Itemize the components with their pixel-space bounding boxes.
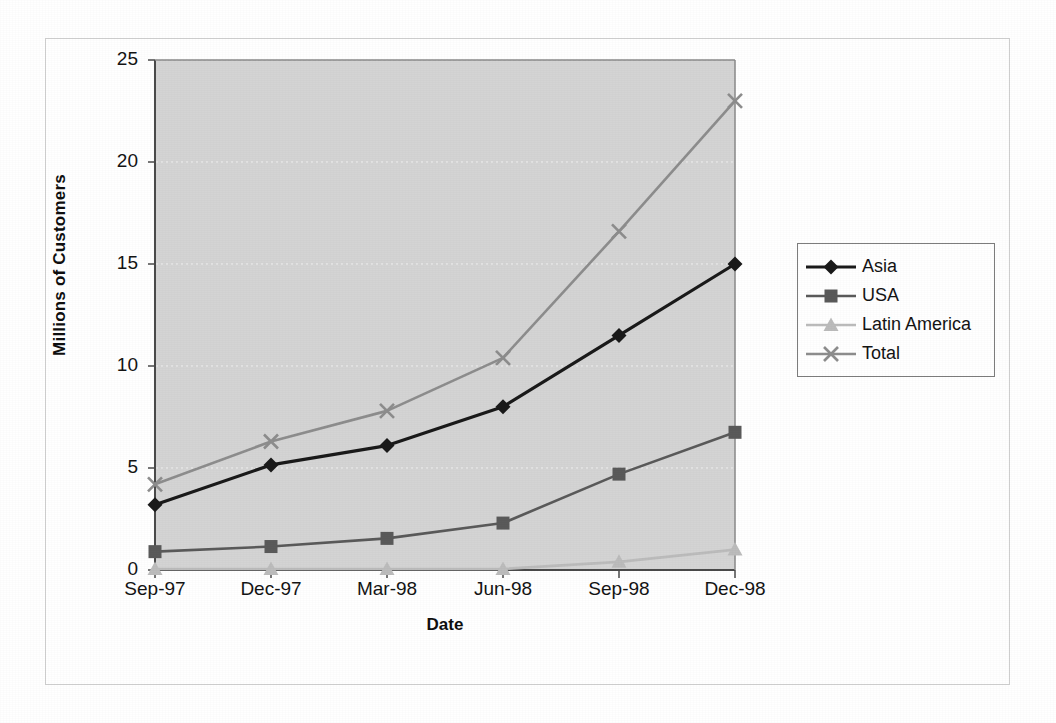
y-tick-label: 20	[98, 150, 138, 172]
y-tick-label: 25	[98, 48, 138, 70]
y-axis-title: Millions of Customers	[50, 155, 70, 375]
x-tick-label: Dec-97	[211, 578, 331, 600]
x-tick-label: Sep-98	[559, 578, 679, 600]
square-marker-icon	[497, 517, 510, 530]
x-axis-ticks	[155, 570, 735, 578]
chart-legend[interactable]: Asia USA Latin America Total	[797, 243, 995, 377]
x-axis-title: Date	[335, 615, 555, 635]
legend-label: Asia	[858, 256, 897, 277]
legend-item-asia[interactable]: Asia	[804, 252, 988, 281]
diamond-marker-icon	[824, 259, 839, 274]
y-tick-label: 0	[98, 558, 138, 580]
x-tick-label: Sep-97	[95, 578, 215, 600]
square-marker-icon	[804, 286, 858, 306]
legend-item-usa[interactable]: USA	[804, 281, 988, 310]
y-tick-label: 15	[98, 252, 138, 274]
cross-marker-icon	[804, 344, 858, 364]
square-marker-icon	[265, 540, 278, 553]
square-marker-icon	[825, 289, 838, 302]
line-chart: 0510152025 Sep-97Dec-97Mar-98Jun-98Sep-9…	[0, 0, 1056, 723]
square-marker-icon	[729, 426, 742, 439]
y-axis-ticks	[148, 60, 155, 570]
y-tick-label: 5	[98, 456, 138, 478]
triangle-marker-icon	[804, 315, 858, 335]
square-marker-icon	[613, 468, 626, 481]
x-tick-label: Mar-98	[327, 578, 447, 600]
legend-item-latin-america[interactable]: Latin America	[804, 310, 988, 339]
legend-label: USA	[858, 285, 899, 306]
y-tick-label: 10	[98, 354, 138, 376]
x-tick-label: Dec-98	[675, 578, 795, 600]
square-marker-icon	[381, 532, 394, 545]
plot-background	[155, 60, 735, 570]
diamond-marker-icon	[804, 257, 858, 277]
legend-item-total[interactable]: Total	[804, 339, 988, 368]
legend-label: Total	[858, 343, 900, 364]
x-tick-label: Jun-98	[443, 578, 563, 600]
legend-label: Latin America	[858, 314, 971, 335]
square-marker-icon	[149, 545, 162, 558]
